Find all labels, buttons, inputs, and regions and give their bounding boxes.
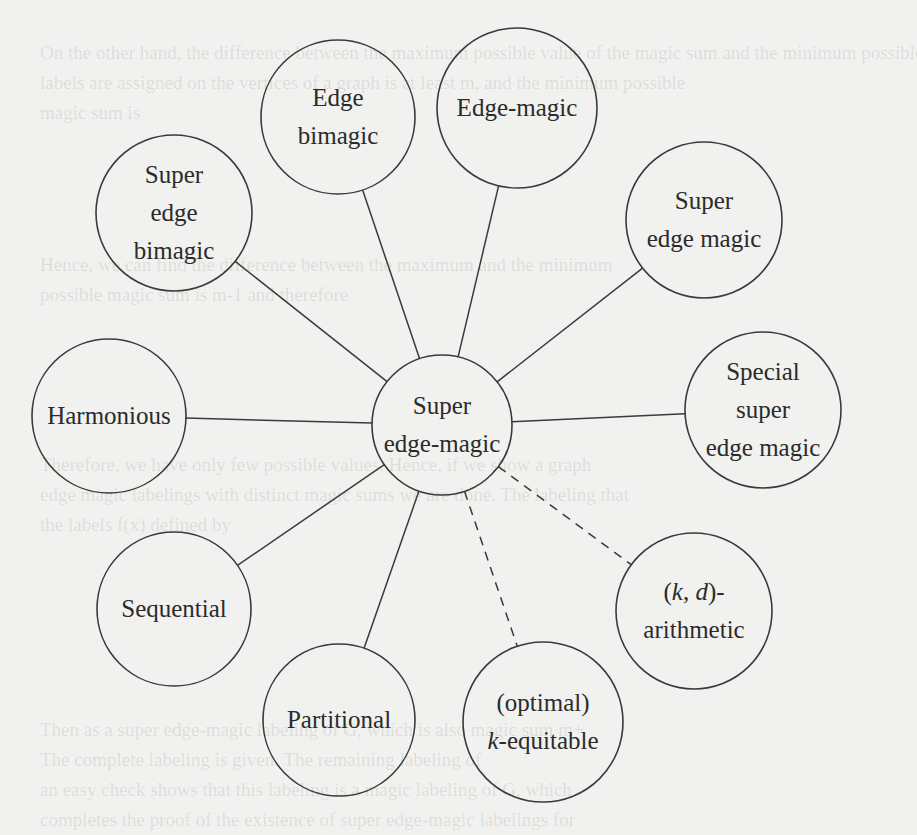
node-super-edge-magic: Superedge-magic: [372, 355, 512, 495]
node-harmonious: Harmonious: [32, 339, 186, 493]
node-kd-arithmetic: (k, d)-arithmetic: [616, 533, 772, 689]
node-label-line: Edge: [312, 79, 363, 117]
edge-optimal-k-equitable: [465, 491, 518, 646]
node-label-line: Edge-magic: [457, 89, 578, 127]
node-label-line: k-equitable: [487, 722, 598, 760]
node-label-line: Special: [726, 353, 800, 391]
node-super-edge-magic-2: Superedge magic: [626, 142, 782, 298]
node-label-line: Partitional: [287, 701, 391, 739]
node-label-line: Harmonious: [47, 397, 171, 435]
node-label-line: (optimal): [496, 684, 589, 722]
node-label-line: arithmetic: [643, 611, 744, 649]
node-label-line: Super: [413, 387, 471, 425]
node-label-line: bimagic: [298, 117, 379, 155]
node-edge-bimagic: Edgebimagic: [261, 40, 415, 194]
node-label-line: Super: [145, 156, 203, 194]
edge-special-super-edge-magic: [512, 414, 685, 422]
edge-sequential: [237, 465, 384, 566]
node-sequential: Sequential: [97, 532, 251, 686]
node-edge-magic: Edge-magic: [437, 28, 597, 188]
node-optimal-k-equitable: (optimal)k-equitable: [463, 642, 623, 802]
node-special-super-edge-magic: Specialsuperedge magic: [685, 332, 841, 488]
node-label-line: edge magic: [706, 429, 821, 467]
edge-super-edge-magic-2: [497, 268, 642, 382]
edge-kd-arithmetic: [498, 467, 631, 565]
edge-super-edge-bimagic: [235, 261, 387, 381]
node-label-line: edge: [150, 194, 197, 232]
node-label-line: bimagic: [134, 232, 215, 270]
node-partitional: Partitional: [263, 644, 415, 796]
node-label-line: edge magic: [647, 220, 762, 258]
edge-partitional: [364, 491, 419, 648]
node-label-line: super: [736, 391, 790, 429]
node-label-line: (k, d)-: [663, 573, 724, 611]
node-super-edge-bimagic: Superedgebimagic: [96, 135, 252, 291]
edge-harmonious: [186, 418, 372, 423]
node-label-line: Sequential: [121, 590, 227, 628]
edge-edge-magic: [458, 186, 498, 357]
node-label-line: edge-magic: [384, 425, 501, 463]
node-label-line: Super: [675, 182, 733, 220]
edge-edge-bimagic: [363, 190, 420, 359]
